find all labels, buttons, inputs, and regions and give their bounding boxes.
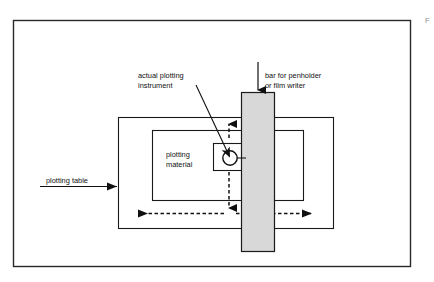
penholder-bar [242,93,275,252]
label-plotting-table: plotting table [46,176,88,185]
plotting-instrument-circle [223,151,237,165]
label-bar-for-penholder-line1: bar for penholder [265,71,322,80]
label-actual-plotting-instrument-line2: instrument [138,81,173,90]
label-plotting-material-line2: material [166,160,193,169]
label-actual-plotting-instrument-line1: actual plotting [138,71,184,80]
figure-root: actual plotting instrument bar for penho… [0,0,434,282]
corner-mark-letter: F [425,16,430,25]
label-plotting-material-line1: plotting [166,150,190,159]
plotting-table-diagram: actual plotting instrument bar for penho… [0,0,434,282]
label-bar-for-penholder-line2: or film writer [265,81,306,90]
